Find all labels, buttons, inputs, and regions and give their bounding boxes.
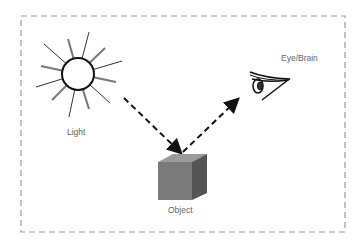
eye-icon: [250, 72, 290, 100]
sun-icon: [36, 32, 122, 117]
light-to-object-arrow: [124, 98, 180, 152]
light-label: Light: [67, 127, 85, 137]
eye-brain-label: Eye/Brain: [281, 53, 318, 63]
object-to-eye-arrow: [183, 100, 237, 152]
cube-icon: [158, 154, 207, 200]
object-label: Object: [168, 205, 193, 215]
